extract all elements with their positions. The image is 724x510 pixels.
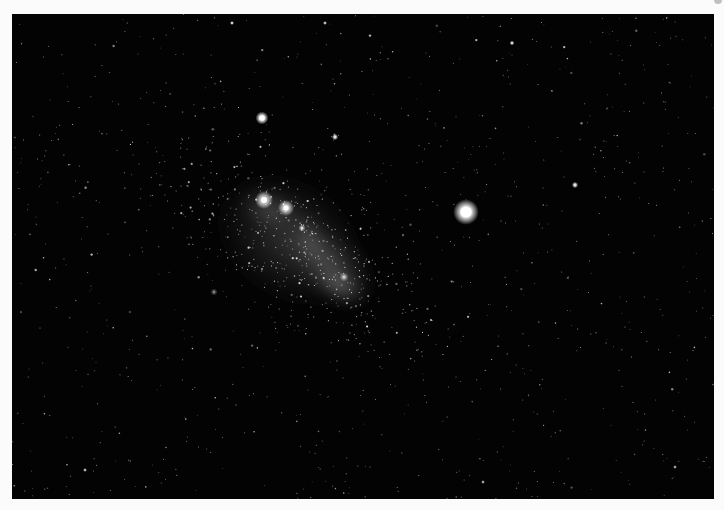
galaxy-glow [172, 128, 408, 352]
starfield-canvas [12, 14, 714, 499]
galaxy-photograph [12, 14, 714, 499]
page [0, 0, 724, 510]
bright-foreground-stars [83, 21, 677, 484]
page-corner-mark [714, 0, 722, 4]
